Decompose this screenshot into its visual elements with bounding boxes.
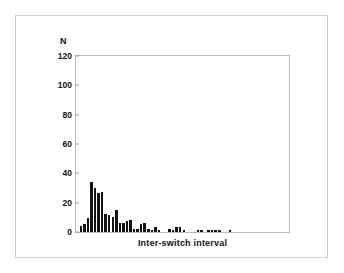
y-axis-tick-mark [75,144,79,145]
y-axis-tick-label: 100 [44,80,72,90]
y-axis-tick-label: 20 [44,198,72,208]
y-axis-tick-mark [75,56,79,57]
y-axis-tick-mark [75,114,79,115]
y-axis-tick-label: 120 [44,51,72,61]
histogram-bars [76,56,289,233]
x-axis-baseline [75,232,290,233]
y-axis-tick-mark [75,202,79,203]
histogram-bar [115,210,118,233]
histogram-bar [94,188,97,233]
y-axis-tick-mark [75,85,79,86]
histogram-bar [90,182,93,233]
y-axis-tick-mark [75,173,79,174]
y-axis-tick-label: 80 [44,110,72,120]
y-axis-tick-mark [75,232,79,233]
histogram-bar [104,214,107,233]
histogram-bar [97,193,100,233]
y-axis-tick-label: 60 [44,139,72,149]
y-axis-tick-label: 40 [44,168,72,178]
y-axis-tick-labels: 020406080100120 [40,0,72,273]
histogram-bar [87,218,90,233]
histogram-bar [108,215,111,233]
histogram-bar [112,217,115,233]
histogram-bar [101,192,104,233]
x-axis-title: Inter-switch interval [75,238,290,248]
figure-canvas: N 020406080100120 Inter-switch interval [0,0,344,273]
y-axis-tick-label: 0 [44,227,72,237]
